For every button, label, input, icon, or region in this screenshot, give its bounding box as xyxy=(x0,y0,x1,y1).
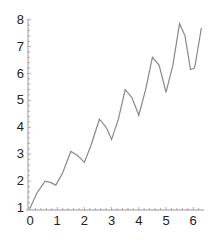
x-tick-label: 2 xyxy=(81,213,88,228)
y-tick-label: 6 xyxy=(17,66,24,81)
y-tick-label: 3 xyxy=(17,146,24,161)
y-tick-label: 5 xyxy=(17,92,24,107)
x-tick-label: 0 xyxy=(26,213,33,228)
y-tick-label: 4 xyxy=(17,119,24,134)
data-line xyxy=(30,24,201,208)
y-tick-label: 8 xyxy=(17,12,24,27)
x-tick-label: 4 xyxy=(135,213,142,228)
y-tick-label: 1 xyxy=(17,200,24,215)
y-tick-label: 7 xyxy=(17,39,24,54)
line-chart: 12345678 0123456 xyxy=(0,0,220,240)
x-tick-label: 3 xyxy=(108,213,115,228)
x-tick-label: 6 xyxy=(190,213,197,228)
x-tick-label: 1 xyxy=(54,213,61,228)
x-axis: 0123456 xyxy=(26,207,204,228)
y-axis: 12345678 xyxy=(17,12,31,215)
y-tick-label: 2 xyxy=(17,173,24,188)
x-tick-label: 5 xyxy=(162,213,169,228)
